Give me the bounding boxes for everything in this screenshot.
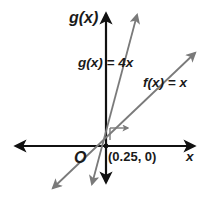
x-axis-label: x bbox=[186, 150, 194, 164]
point-label: (0.25, 0) bbox=[108, 150, 156, 163]
g-equation-label: g(x) = 4x bbox=[78, 56, 133, 70]
origin-point bbox=[104, 144, 109, 149]
origin-label: O bbox=[74, 150, 86, 166]
line-f-x bbox=[53, 53, 195, 188]
f-equation-label: f(x) = x bbox=[143, 76, 187, 90]
function-graph bbox=[0, 0, 206, 212]
y-axis-label: g(x) bbox=[69, 10, 98, 26]
